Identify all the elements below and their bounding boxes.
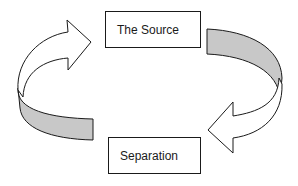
left-arrow-icon — [18, 20, 91, 97]
right-arrow-icon — [208, 78, 282, 153]
node-label: The Source — [106, 23, 179, 37]
node-the-source: The Source — [105, 11, 201, 48]
cycle-diagram: The Source Separation — [0, 0, 298, 186]
node-label: Separation — [109, 149, 178, 163]
right-arrow-band — [207, 29, 282, 98]
node-separation: Separation — [108, 137, 201, 174]
left-arrow-band — [18, 88, 93, 140]
